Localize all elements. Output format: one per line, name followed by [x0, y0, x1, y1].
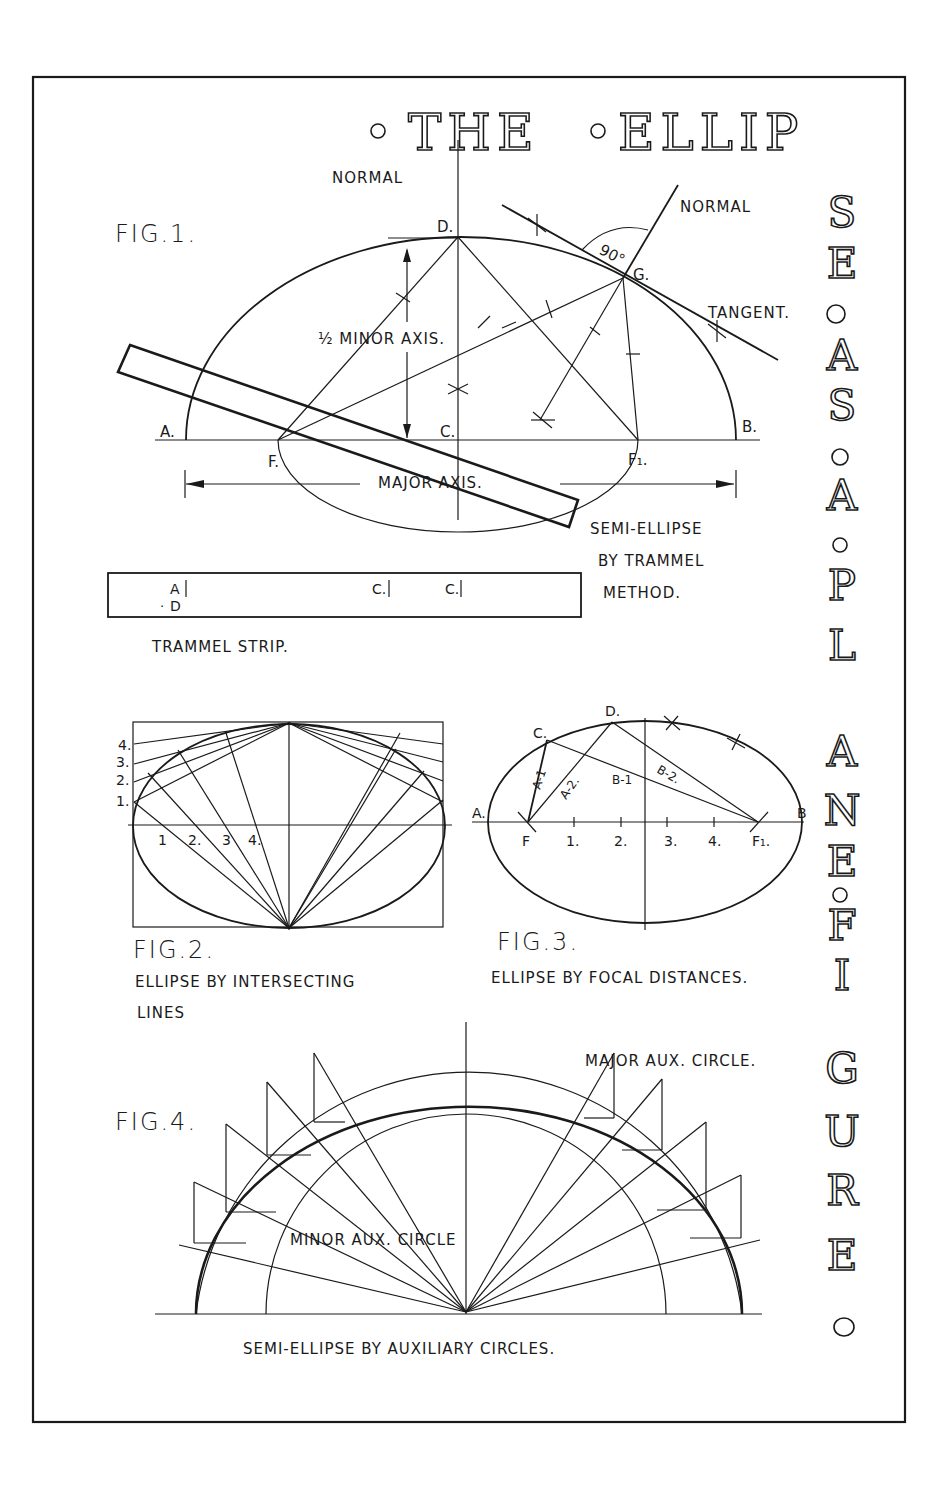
- title-dot: [832, 449, 848, 465]
- normal-right-label: NORMAL: [680, 198, 751, 216]
- point-a-label: A.: [160, 423, 175, 441]
- fig3-tick: 3.: [664, 833, 677, 849]
- title-letter: F: [827, 901, 856, 950]
- fig2-tick-axis: 4.: [248, 832, 261, 848]
- title-letter: I: [834, 951, 851, 1000]
- trammel-mark-d-dot: ·: [160, 599, 164, 614]
- fig3-point-d: D.: [605, 703, 620, 719]
- fig2-tick-axis: 3: [222, 832, 231, 848]
- fig2-tick-left: 4.: [118, 737, 131, 753]
- title-dot: [833, 888, 847, 902]
- title-vertical: S E A S A P L A N E F I G U R E: [824, 188, 861, 1336]
- trammel-mark-c2: C.: [445, 581, 459, 597]
- normal-label: NORMAL: [332, 169, 403, 187]
- title-word-the: THE: [408, 104, 539, 162]
- title-letter: U: [824, 1107, 859, 1156]
- trammel-strip: A · D C. C. TRAMMEL STRIP.: [108, 573, 581, 656]
- fig3-tick: 1.: [566, 833, 579, 849]
- fig3-segment-b1: B-1: [612, 773, 632, 787]
- title-letter: R: [826, 1166, 859, 1215]
- title-horizontal: THE ELLIP: [371, 104, 804, 162]
- fig2-caption-line: ELLIPSE BY INTERSECTING: [135, 973, 355, 991]
- fig1-label: FIG.1.: [115, 220, 197, 248]
- point-d-label: D.: [437, 218, 453, 236]
- fig4-caption: SEMI-ELLIPSE BY AUXILIARY CIRCLES.: [243, 1340, 555, 1358]
- ellipse-plate: THE ELLIP S E A S A P L A N E F I G U R …: [0, 0, 939, 1494]
- fig2-tick-left: 3.: [116, 754, 129, 770]
- point-b-label: B.: [742, 418, 757, 436]
- fig3-segment-a1: A-1: [530, 768, 549, 791]
- title-letter: S: [828, 381, 857, 430]
- fig2-caption-line: LINES: [137, 1004, 185, 1022]
- title-letter: A: [826, 331, 858, 380]
- point-c-label: C.: [440, 423, 455, 441]
- trammel-caption: TRAMMEL STRIP.: [151, 638, 289, 656]
- title-dot: [833, 538, 847, 552]
- fig2-tick-axis: 1: [158, 832, 167, 848]
- fig2-label: FIG.2.: [133, 936, 215, 964]
- title-letter: E: [827, 1231, 858, 1280]
- fig3-label: FIG.3.: [497, 928, 579, 956]
- major-axis-label: MAJOR AXIS.: [378, 474, 483, 492]
- fig4-label: FIG.4.: [115, 1108, 197, 1136]
- title-letter: E: [827, 837, 858, 886]
- title-letter: A: [826, 727, 858, 776]
- title-dot: [827, 305, 845, 323]
- trammel-mark-c1: C.: [372, 581, 386, 597]
- tangent-label: TANGENT.: [707, 304, 790, 322]
- fig3-caption: ELLIPSE BY FOCAL DISTANCES.: [491, 969, 748, 987]
- trammel-mark-a: A: [170, 581, 180, 597]
- minor-aux-circle-label: MINOR AUX. CIRCLE: [290, 1231, 457, 1249]
- fig2-tick-axis: 2.: [188, 832, 201, 848]
- title-letter: N: [824, 786, 861, 835]
- title-dot: [834, 1318, 854, 1336]
- fig2-intersecting-lines: 4. 3. 2. 1. 1 2. 3 4. FIG.2. ELLIPSE BY …: [116, 722, 452, 1022]
- fig3-point-f: F: [522, 833, 530, 849]
- fig4-auxiliary-circles: MAJOR AUX. CIRCLE. MINOR AUX. CIRCLE FIG…: [115, 1022, 762, 1358]
- fig3-point-f1: F₁.: [752, 833, 770, 849]
- point-f1-label: F₁.: [628, 451, 647, 469]
- title-letter: G: [825, 1044, 859, 1093]
- fig1-caption-line: METHOD.: [603, 584, 681, 602]
- fig3-point-c: C.: [533, 725, 547, 741]
- fig3-focal-distances: A. B C. D. F F₁. 1. 2. 3. 4. A-1 A-2. B-…: [472, 703, 807, 987]
- fig2-tick-left: 2.: [116, 772, 129, 788]
- fig3-tick: 4.: [708, 833, 721, 849]
- fig1-caption-line: BY TRAMMEL: [598, 552, 704, 570]
- major-aux-circle-label: MAJOR AUX. CIRCLE.: [585, 1052, 756, 1070]
- title-letter: E: [827, 239, 858, 288]
- point-g-label: G.: [633, 266, 649, 284]
- fig3-tick: 2.: [614, 833, 627, 849]
- trammel-mark-d: D: [170, 598, 181, 614]
- fig3-segment-a2: A-2.: [557, 774, 582, 801]
- point-f-label: F.: [268, 453, 279, 471]
- fig2-tick-left: 1.: [116, 793, 129, 809]
- fig1-trammel-method: FIG.1. NORMAL A. C. B. F. F₁. D. NORMAL …: [115, 140, 790, 602]
- fig3-point-b: B: [797, 805, 807, 821]
- title-letter: S: [828, 188, 857, 237]
- title-letter: L: [828, 621, 856, 670]
- fig3-point-a: A.: [472, 805, 486, 821]
- title-word-ellip: ELLIP: [618, 104, 804, 162]
- half-minor-axis-label: ½ MINOR AXIS.: [318, 330, 445, 348]
- title-letter: A: [826, 471, 858, 520]
- page-frame: [33, 77, 905, 1422]
- title-letter: P: [828, 561, 856, 610]
- fig1-caption-line: SEMI-ELLIPSE: [590, 520, 702, 538]
